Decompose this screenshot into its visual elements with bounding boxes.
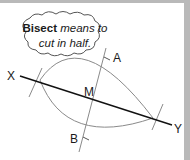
tick-b <box>83 137 89 140</box>
callout-term: Bisect <box>22 22 57 34</box>
arc-mark-y <box>152 104 163 130</box>
label-m: M <box>84 86 94 98</box>
segment-xy <box>20 76 172 125</box>
label-y: Y <box>174 123 182 135</box>
label-x: X <box>7 70 15 82</box>
label-b: B <box>70 133 78 145</box>
callout-def-1: means to <box>60 22 107 34</box>
callout-text: Bisect means to cut in half. <box>22 21 108 51</box>
label-a: A <box>113 52 121 64</box>
lower-arc <box>40 80 153 127</box>
callout-def-2: cut in half. <box>39 37 91 49</box>
tick-a <box>104 57 110 60</box>
